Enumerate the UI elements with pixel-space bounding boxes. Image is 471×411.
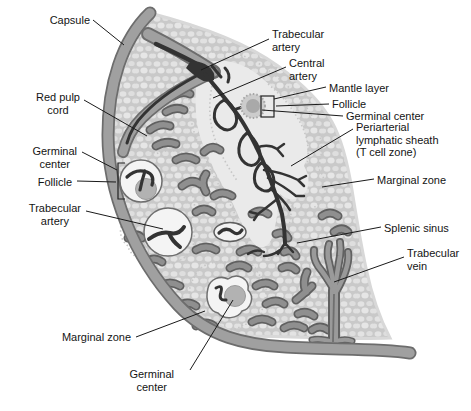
trabecular-artery-cross-section — [144, 208, 192, 256]
label-germinal-center-bottom: Germinal center — [129, 368, 174, 393]
vessel-cross-section — [214, 223, 246, 242]
germinal-center-right-core — [246, 99, 260, 113]
spleen-diagram-figure: Capsule Red pulp cord Germinal center Fo… — [0, 0, 471, 411]
label-follicle-right: Follicle — [332, 98, 366, 111]
label-germinal-center-left: Germinal center — [32, 145, 77, 170]
label-splenic-sinus: Splenic sinus — [384, 222, 449, 235]
label-central-artery: Central artery — [289, 57, 324, 82]
label-marginal-zone-bottom: Marginal zone — [62, 331, 131, 344]
label-marginal-zone-right: Marginal zone — [377, 174, 446, 187]
label-trabecular-vein: Trabecular vein — [407, 247, 459, 272]
label-periarterial-lymphatic-sheath: Periarterial lymphatic sheath (T cell zo… — [356, 121, 439, 159]
label-capsule: Capsule — [50, 14, 90, 27]
leader-capsule — [93, 20, 124, 45]
label-follicle-left: Follicle — [38, 176, 72, 189]
label-trabecular-artery-left: Trabecular artery — [29, 202, 81, 227]
label-red-pulp-cord: Red pulp cord — [36, 91, 80, 116]
label-trabecular-artery-top: Trabecular artery — [272, 28, 324, 53]
follicle-left-structure — [120, 160, 162, 202]
label-mantle-layer: Mantle layer — [329, 82, 389, 95]
